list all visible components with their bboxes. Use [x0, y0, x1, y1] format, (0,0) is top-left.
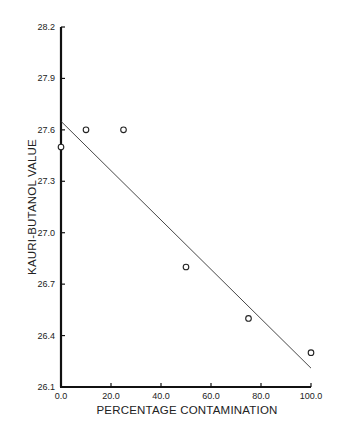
y-tick-label: 28.2	[37, 22, 55, 32]
data-points	[58, 127, 314, 355]
regression-line	[61, 121, 311, 368]
scatter-chart: 26.126.426.727.027.327.627.928.2 0.020.0…	[0, 0, 337, 442]
y-tick-label: 27.0	[37, 228, 55, 238]
x-tick-label: 80.0	[252, 391, 270, 401]
y-tick-label: 27.9	[37, 73, 55, 83]
x-axis-ticks: 0.020.040.060.080.0100.0	[55, 383, 323, 401]
x-tick-label: 20.0	[102, 391, 120, 401]
y-tick-label: 27.3	[37, 176, 55, 186]
axes	[60, 27, 311, 387]
x-axis-title: PERCENTAGE CONTAMINATION	[96, 404, 277, 416]
fitted-line	[61, 121, 311, 368]
x-tick-label: 0.0	[55, 391, 68, 401]
x-tick-label: 40.0	[152, 391, 170, 401]
data-point-marker	[121, 127, 127, 133]
x-tick-label: 60.0	[202, 391, 220, 401]
y-tick-label: 26.4	[37, 331, 55, 341]
x-tick-label: 100.0	[300, 391, 323, 401]
data-point-marker	[183, 264, 189, 270]
data-point-marker	[83, 127, 89, 133]
y-tick-label: 26.7	[37, 279, 55, 289]
data-point-marker	[308, 350, 314, 356]
y-axis-title: KAURI-BUTANOL VALUE	[26, 139, 38, 275]
y-tick-label: 27.6	[37, 125, 55, 135]
data-point-marker	[246, 316, 252, 322]
data-point-marker	[58, 144, 64, 150]
y-tick-label: 26.1	[37, 382, 55, 392]
